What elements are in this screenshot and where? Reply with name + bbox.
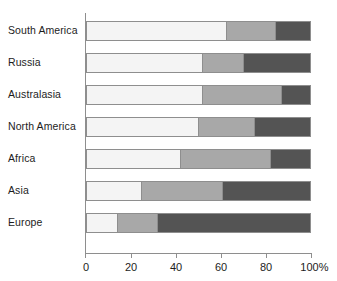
bar-segment-3 xyxy=(254,118,310,136)
x-tick-40 xyxy=(176,253,177,258)
bar-segment-2 xyxy=(202,86,281,104)
scan-artifact xyxy=(0,0,337,8)
bar-europe xyxy=(86,213,311,233)
bar-segment-2 xyxy=(141,182,222,200)
bar-segment-3 xyxy=(270,150,310,168)
bar-russia xyxy=(86,53,311,73)
bar-segment-3 xyxy=(275,22,310,40)
bar-segment-3 xyxy=(243,54,310,72)
x-axis-line xyxy=(85,253,311,254)
x-axis-label-80: 80 xyxy=(260,261,272,273)
bar-australasia xyxy=(86,85,311,105)
category-label-russia: Russia xyxy=(0,57,78,68)
bar-segment-1 xyxy=(87,150,180,168)
x-axis-label-0: 0 xyxy=(83,261,89,273)
x-axis-label-100pct: 100% xyxy=(300,261,328,273)
bar-segment-3 xyxy=(222,182,310,200)
bar-segment-1 xyxy=(87,86,202,104)
category-axis-labels: South AmericaRussiaAustralasiaNorth Amer… xyxy=(0,13,80,253)
bar-south-america xyxy=(86,21,311,41)
plot-area: 020406080100% xyxy=(86,13,311,253)
bar-segment-2 xyxy=(117,214,157,232)
x-axis-label-40: 40 xyxy=(170,261,182,273)
bar-segment-2 xyxy=(198,118,254,136)
bar-segment-1 xyxy=(87,214,117,232)
x-tick-0 xyxy=(85,253,86,258)
bar-segment-1 xyxy=(87,118,198,136)
bar-segment-2 xyxy=(202,54,243,72)
x-tick-20 xyxy=(131,253,132,258)
stacked-bar-chart: South AmericaRussiaAustralasiaNorth Amer… xyxy=(0,0,337,281)
category-label-australasia: Australasia xyxy=(0,89,78,100)
x-tick-100pct xyxy=(311,253,312,258)
bar-segment-1 xyxy=(87,22,226,40)
bar-segment-1 xyxy=(87,182,141,200)
x-axis-label-60: 60 xyxy=(215,261,227,273)
category-label-north-america: North America xyxy=(0,121,78,132)
bar-segment-2 xyxy=(180,150,270,168)
bar-africa xyxy=(86,149,311,169)
x-tick-60 xyxy=(221,253,222,258)
x-axis-label-20: 20 xyxy=(125,261,137,273)
bar-segment-3 xyxy=(157,214,310,232)
bar-segment-1 xyxy=(87,54,202,72)
category-label-south-america: South America xyxy=(0,25,78,36)
bar-segment-3 xyxy=(281,86,310,104)
bar-asia xyxy=(86,181,311,201)
bar-north-america xyxy=(86,117,311,137)
category-label-asia: Asia xyxy=(0,185,78,196)
x-tick-80 xyxy=(266,253,267,258)
category-label-africa: Africa xyxy=(0,153,78,164)
bar-segment-2 xyxy=(226,22,275,40)
category-label-europe: Europe xyxy=(0,217,78,228)
